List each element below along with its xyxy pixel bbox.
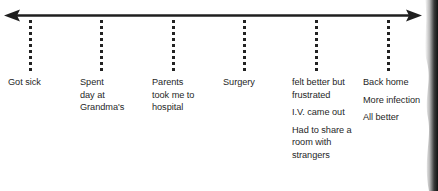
event-paragraph: All better xyxy=(363,111,435,124)
event-text-line: Back home xyxy=(363,76,435,89)
event-paragraph: Back home xyxy=(363,76,435,89)
event-text-line: Got sick xyxy=(8,76,72,89)
timeline-figure: Got sick Spentday atGrandma's Parentstoo… xyxy=(0,0,438,191)
event-text-line: strangers xyxy=(292,149,362,162)
event-text-line: room with xyxy=(292,136,362,149)
event-text-line: frustrated xyxy=(292,89,362,102)
event-text-line: Surgery xyxy=(223,76,287,89)
event-label-felt-better-but-frustrated: felt better butfrustratedI.V. came outHa… xyxy=(292,76,362,162)
event-label-surgery: Surgery xyxy=(223,76,287,89)
event-text-line: Spent xyxy=(80,76,146,89)
tick-dotted-line-4 xyxy=(315,20,318,72)
event-paragraph: Spentday atGrandma's xyxy=(80,76,146,114)
event-text-line: day at xyxy=(80,89,146,102)
event-text-line: I.V. came out xyxy=(292,106,362,119)
event-paragraph: Had to share aroom withstrangers xyxy=(292,124,362,162)
tick-dotted-line-0 xyxy=(29,20,32,72)
event-text-line: Had to share a xyxy=(292,124,362,137)
event-text-line: Grandma's xyxy=(80,101,146,114)
event-text-line: hospital xyxy=(152,101,218,114)
tick-dotted-line-2 xyxy=(172,20,175,72)
event-paragraph: Parentstook me tohospital xyxy=(152,76,218,114)
event-label-got-sick: Got sick xyxy=(8,76,72,89)
event-text-line: felt better but xyxy=(292,76,362,89)
event-text-line: All better xyxy=(363,111,435,124)
event-label-back-home: Back homeMore infectionAll better xyxy=(363,76,435,124)
event-text-line: Parents xyxy=(152,76,218,89)
event-paragraph: Surgery xyxy=(223,76,287,89)
event-text-line: took me to xyxy=(152,89,218,102)
event-label-parents-took-me-to-hospital: Parentstook me tohospital xyxy=(152,76,218,114)
event-text-line: More infection xyxy=(363,94,435,107)
event-label-spent-day-at-grandmas: Spentday atGrandma's xyxy=(80,76,146,114)
timeline-axis xyxy=(0,0,438,30)
event-paragraph: Got sick xyxy=(8,76,72,89)
event-paragraph: More infection xyxy=(363,94,435,107)
event-paragraph: I.V. came out xyxy=(292,106,362,119)
event-paragraph: felt better butfrustrated xyxy=(292,76,362,101)
tick-dotted-line-3 xyxy=(243,20,246,72)
tick-dotted-line-5 xyxy=(387,20,390,72)
tick-dotted-line-1 xyxy=(100,20,103,72)
